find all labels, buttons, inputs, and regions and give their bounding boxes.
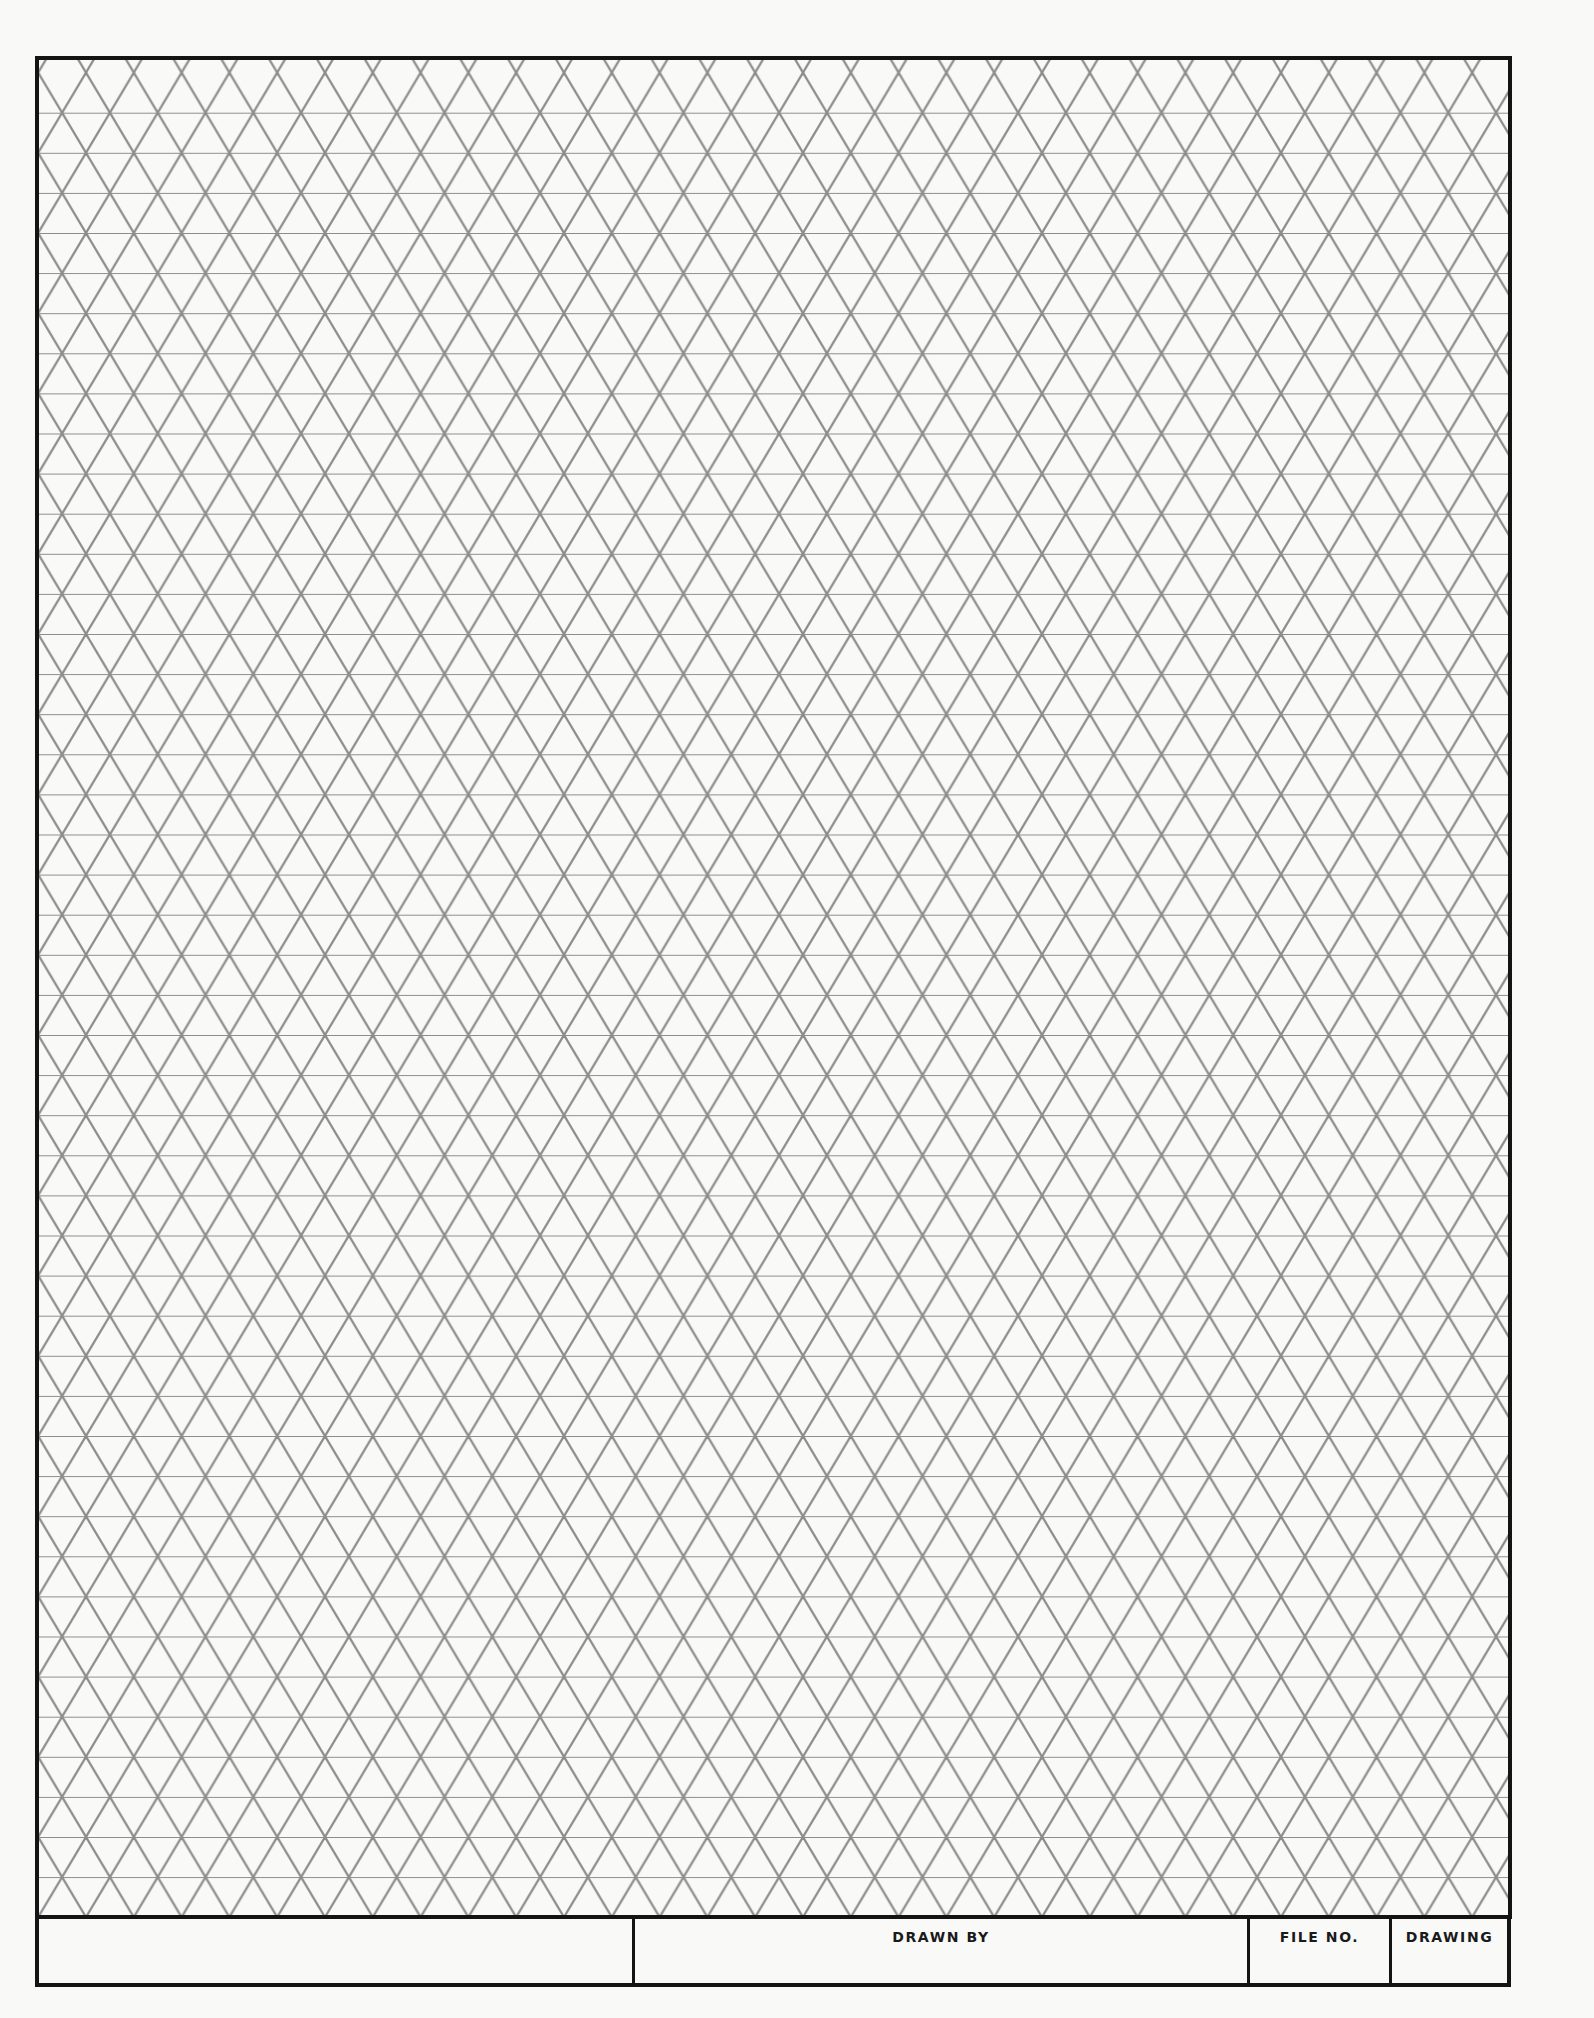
title-block: DRAWN BY FILE NO. DRAWING: [35, 1915, 1511, 1987]
grid-lines: [37, 58, 1510, 1917]
drawn-by-label: DRAWN BY: [635, 1929, 1247, 1945]
drawing-label: DRAWING: [1392, 1929, 1507, 1945]
file-no-label: FILE NO.: [1250, 1929, 1389, 1945]
drawing-sheet: DRAWN BY FILE NO. DRAWING: [0, 0, 1594, 2018]
isometric-grid: [0, 0, 1594, 2018]
title-block-blank-cell[interactable]: [39, 1919, 632, 1983]
drawing-field[interactable]: DRAWING: [1389, 1919, 1507, 1983]
file-no-field[interactable]: FILE NO.: [1247, 1919, 1389, 1983]
drawn-by-field[interactable]: DRAWN BY: [632, 1919, 1247, 1983]
